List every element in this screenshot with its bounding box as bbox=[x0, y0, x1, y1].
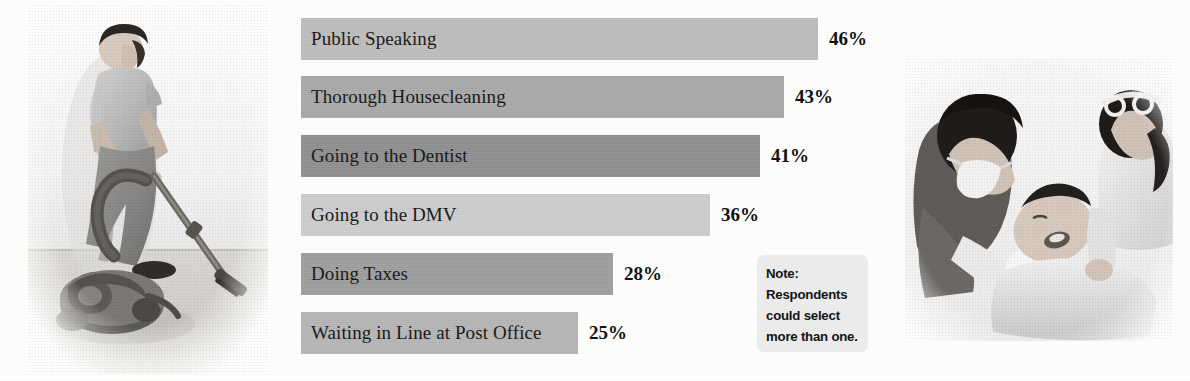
bar-row: Going to the DMV 36% bbox=[301, 194, 759, 236]
bar-going-to-the-dmv: Going to the DMV bbox=[301, 194, 710, 236]
photo-right-graphic bbox=[905, 58, 1173, 341]
bar-value: 41% bbox=[771, 145, 809, 167]
note-line: Note: bbox=[766, 263, 868, 284]
note-line: could select bbox=[766, 305, 868, 326]
photo-dentist-scene bbox=[905, 58, 1173, 341]
bar-public-speaking: Public Speaking bbox=[301, 18, 818, 60]
bar-row: Waiting in Line at Post Office 25% bbox=[301, 312, 627, 354]
bar-label: Going to the Dentist bbox=[311, 145, 468, 167]
bar-row: Doing Taxes 28% bbox=[301, 253, 662, 295]
bar-value: 28% bbox=[624, 263, 662, 285]
bar-going-to-the-dentist: Going to the Dentist bbox=[301, 135, 760, 177]
bar-label: Waiting in Line at Post Office bbox=[311, 322, 542, 344]
bar-thorough-housecleaning: Thorough Housecleaning bbox=[301, 76, 784, 118]
note-box: Note: Respondents could select more than… bbox=[757, 255, 868, 352]
bar-label: Thorough Housecleaning bbox=[311, 86, 506, 108]
bar-value: 43% bbox=[795, 86, 833, 108]
bar-label: Public Speaking bbox=[311, 28, 437, 50]
bar-row: Thorough Housecleaning 43% bbox=[301, 76, 833, 118]
bar-value: 46% bbox=[829, 28, 867, 50]
bar-row: Public Speaking 46% bbox=[301, 18, 867, 60]
bar-row: Going to the Dentist 41% bbox=[301, 135, 809, 177]
bar-doing-taxes: Doing Taxes bbox=[301, 253, 613, 295]
note-line: Respondents bbox=[766, 284, 868, 305]
bar-label: Doing Taxes bbox=[311, 263, 408, 285]
bar-waiting-in-line-at-post-office: Waiting in Line at Post Office bbox=[301, 312, 578, 354]
photo-man-vacuuming bbox=[28, 4, 268, 374]
bar-value: 36% bbox=[721, 204, 759, 226]
photo-left-graphic bbox=[28, 4, 268, 374]
note-line: more than one. bbox=[766, 326, 868, 347]
bar-value: 25% bbox=[589, 322, 627, 344]
bar-label: Going to the DMV bbox=[311, 204, 457, 226]
